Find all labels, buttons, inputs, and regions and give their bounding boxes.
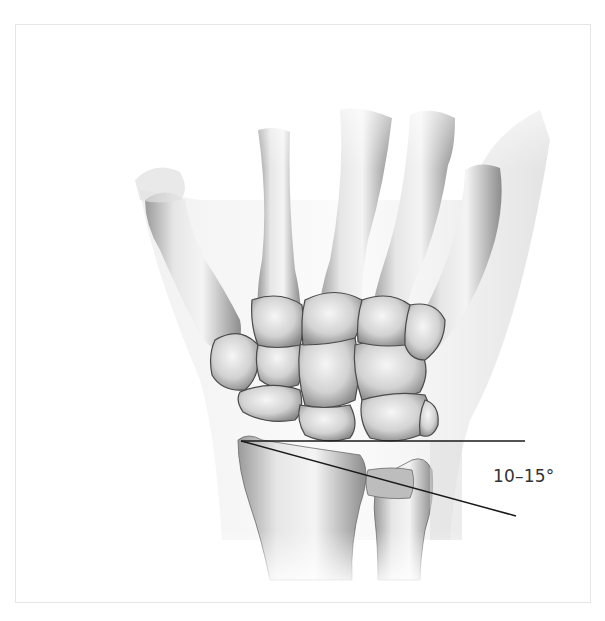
trapezium [211,334,259,391]
forearm-shadow [430,440,462,540]
finger-fade-overlay [120,60,560,170]
metacarpal-base-middle [302,293,363,346]
wrist-illustration [0,0,605,621]
metacarpal-bases [252,296,304,348]
triquetrum [361,393,429,441]
capitate [299,335,359,407]
ulnar-head [366,468,414,499]
lunate [299,405,355,441]
angle-label: 10–15° [493,466,554,486]
forearm-fade-overlay [200,530,500,590]
metacarpal-base-ring [358,296,412,346]
